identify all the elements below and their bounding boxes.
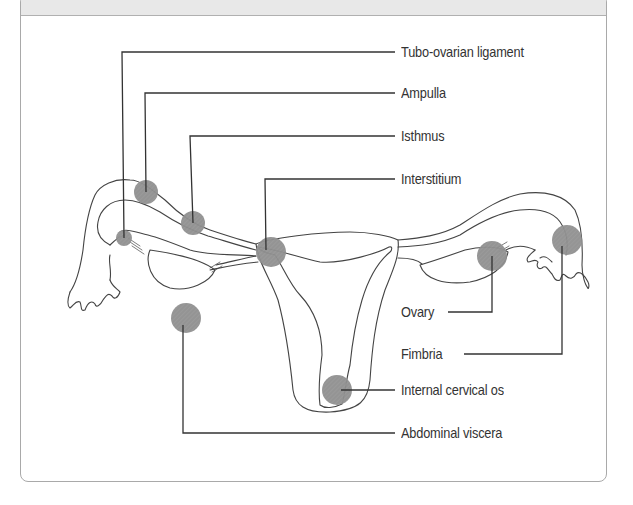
label-isthmus: Isthmus: [401, 128, 444, 144]
marker-interstitium: [256, 237, 286, 267]
leader-ampulla: [145, 93, 395, 192]
label-fimbria: Fimbria: [401, 346, 442, 362]
marker-fimbria: [552, 225, 582, 255]
label-abdominal-viscera: Abdominal viscera: [401, 425, 502, 441]
leader-interstitium: [265, 179, 395, 250]
anatomy-outline: [68, 180, 589, 412]
label-tubo-ovarian-ligament: Tubo-ovarian ligament: [401, 44, 524, 60]
label-internal-cervical-os: Internal cervical os: [401, 382, 504, 398]
label-ampulla: Ampulla: [401, 85, 446, 101]
anatomy-diagram: [0, 0, 633, 505]
marker-abdominal-viscera: [171, 303, 201, 333]
leader-abdominal-viscera: [183, 325, 395, 433]
label-interstitium: Interstitium: [401, 171, 461, 187]
leader-tubo-ovarian-ligament: [122, 52, 395, 238]
label-ovary: Ovary: [401, 304, 434, 320]
